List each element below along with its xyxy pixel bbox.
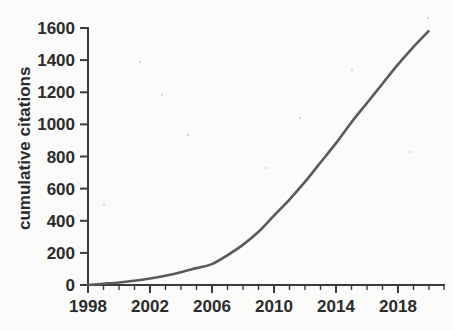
- x-tick-labels: 1998 2002 2006 2010 2014 2018: [69, 297, 417, 316]
- y-tick-label-200: 200: [47, 244, 75, 263]
- y-tick-label-1400: 1400: [37, 51, 75, 70]
- y-tick-label-0: 0: [66, 276, 75, 295]
- chart-plot-area: 1600 1400 1200 1000 800 600 400 200 0: [0, 0, 454, 330]
- paper-specks: [75, 17, 429, 313]
- citation-chart: 1600 1400 1200 1000 800 600 400 200 0: [0, 0, 454, 330]
- citations-line: [88, 31, 429, 285]
- y-tick-label-1600: 1600: [37, 19, 75, 38]
- y-tick-label-1000: 1000: [37, 115, 75, 134]
- y-tick-label-800: 800: [47, 148, 75, 167]
- x-tick-label-2014: 2014: [317, 297, 355, 316]
- y-tick-label-400: 400: [47, 212, 75, 231]
- x-tick-label-2010: 2010: [255, 297, 293, 316]
- y-axis-title: cumulative citations: [15, 67, 34, 230]
- x-tick-label-1998: 1998: [69, 297, 107, 316]
- y-tick-label-600: 600: [47, 180, 75, 199]
- x-axis: [88, 285, 444, 293]
- x-tick-label-2018: 2018: [379, 297, 417, 316]
- y-tick-label-1200: 1200: [37, 83, 75, 102]
- x-tick-label-2002: 2002: [131, 297, 169, 316]
- x-tick-label-2006: 2006: [193, 297, 231, 316]
- y-tick-labels: 1600 1400 1200 1000 800 600 400 200 0: [37, 19, 75, 295]
- y-axis: [80, 28, 88, 285]
